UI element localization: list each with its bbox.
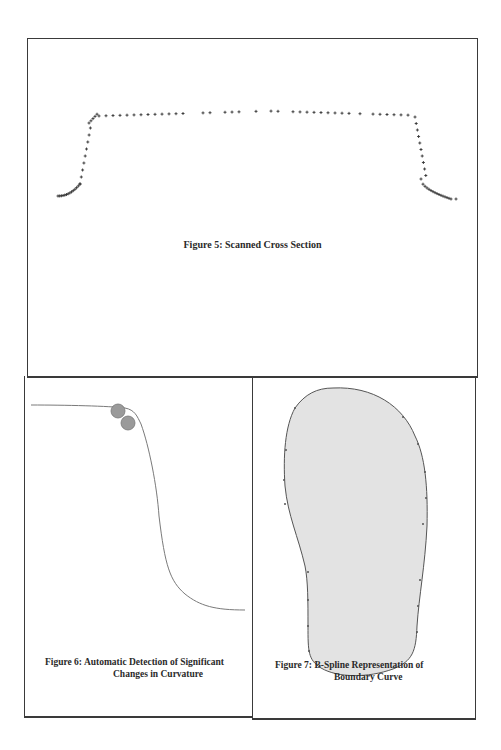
scan-point [224,111,227,114]
scan-point [168,112,171,115]
scan-point [209,111,212,114]
scan-point [400,113,403,116]
scan-point [372,113,375,116]
scan-point [327,111,330,114]
control-point-marker [307,571,309,573]
scan-point [407,114,410,117]
scan-point [133,113,136,116]
control-point-marker [425,497,427,499]
profile-curve [31,405,245,610]
scan-point [299,110,302,113]
scan-point [105,114,108,117]
control-point-marker [307,625,309,627]
control-point-marker [417,443,419,445]
control-point-marker [283,479,285,481]
figure-7-caption-line1: Figure 7: B-Spline Representation of [275,659,423,671]
scan-point [77,184,80,187]
scan-point [154,113,157,116]
scan-point [85,148,88,151]
control-point-marker [285,449,287,451]
scan-point [98,114,101,117]
control-point-marker [419,579,421,581]
scan-point [422,161,425,164]
scan-point [418,142,421,145]
scan-point [92,117,95,120]
scan-point [320,111,323,114]
scan-point [306,111,309,114]
figure-6-panel: Figure 6: Automatic Detection of Signifi… [24,376,253,718]
scan-point [415,122,418,125]
scan-point [386,113,389,116]
scan-point [420,148,423,151]
scan-point [112,114,115,117]
scan-point [455,198,458,201]
figure-7-panel: Figure 7: B-Spline Representation of Bou… [252,376,476,720]
scan-point [161,113,164,116]
scan-point [140,113,143,116]
scan-point [81,169,84,172]
scan-point [63,194,66,197]
scan-point [393,113,396,116]
scan-point [414,116,417,119]
scan-point [75,186,78,189]
scan-point [94,115,97,118]
control-point-marker [422,523,424,525]
control-point-marker [424,471,426,473]
scan-point [292,110,295,113]
scan-point [417,135,420,138]
figure-6-caption-line1: Figure 6: Automatic Detection of Signifi… [45,656,224,668]
scan-point [270,110,273,113]
scan-point [421,155,424,158]
scan-point [175,112,178,115]
control-point-marker [294,407,296,409]
scan-point [182,112,185,115]
scan-point [255,110,258,113]
control-point-marker [416,631,418,633]
scan-point [231,111,234,114]
figure-6-caption-line2: Changes in Curvature [113,668,203,680]
scan-point [341,112,344,115]
scan-point [80,176,83,179]
scan-point [86,141,89,144]
scan-point [126,114,129,117]
scan-point [379,113,382,116]
control-point-marker [284,503,286,505]
figure-5-panel: Figure 5: Scanned Cross Section [27,38,478,378]
scan-point [88,122,91,125]
scanned-cross-section-plot [28,39,479,379]
scan-point [313,111,316,114]
insole-boundary-curve [284,388,427,676]
scan-point [422,183,425,186]
scan-point [147,113,150,116]
scan-point [424,174,427,177]
scan-point [90,119,93,122]
scan-point [420,178,423,181]
control-point-marker [308,650,310,652]
control-point-marker [307,599,309,601]
figure-5-caption: Figure 5: Scanned Cross Section [28,239,477,251]
curvature-change-marker [111,404,125,418]
scan-point [202,111,205,114]
control-point-marker [417,605,419,607]
scan-point [238,110,241,113]
scan-point [334,111,337,114]
scan-point [424,185,427,188]
scan-point [89,127,92,130]
control-point-marker [402,416,404,418]
scan-point [96,113,99,116]
scan-point [416,129,419,132]
scan-point [79,183,82,186]
scan-point [359,112,362,115]
scan-point [277,110,280,113]
curvature-change-marker [121,416,135,430]
scan-point [119,114,122,117]
scan-point [84,155,87,158]
scan-point [348,112,351,115]
figure-7-caption-line2: Boundary Curve [334,671,402,683]
scan-point [82,162,85,165]
scan-point [423,168,426,171]
scan-point [88,134,91,137]
